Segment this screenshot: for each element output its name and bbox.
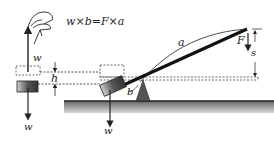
- label-b: b: [127, 87, 133, 97]
- label-F: F: [237, 35, 245, 46]
- label-a: a: [178, 37, 185, 48]
- fulcrum: [136, 80, 150, 101]
- height-dimension: [38, 62, 100, 96]
- lever-bar: [106, 29, 247, 93]
- lever-diagram: [0, 0, 274, 143]
- lever-block: [100, 76, 127, 97]
- hand-icon: [28, 12, 53, 44]
- lever-raised-block-outline: [100, 65, 124, 77]
- ground: [64, 101, 274, 113]
- label-w-up: w: [33, 53, 42, 63]
- lever-equation: w×b=F×a: [66, 16, 124, 27]
- label-w-left: w: [24, 122, 33, 132]
- label-h: h: [51, 73, 58, 84]
- label-s: s: [251, 48, 256, 58]
- label-w-lever: w: [104, 126, 113, 136]
